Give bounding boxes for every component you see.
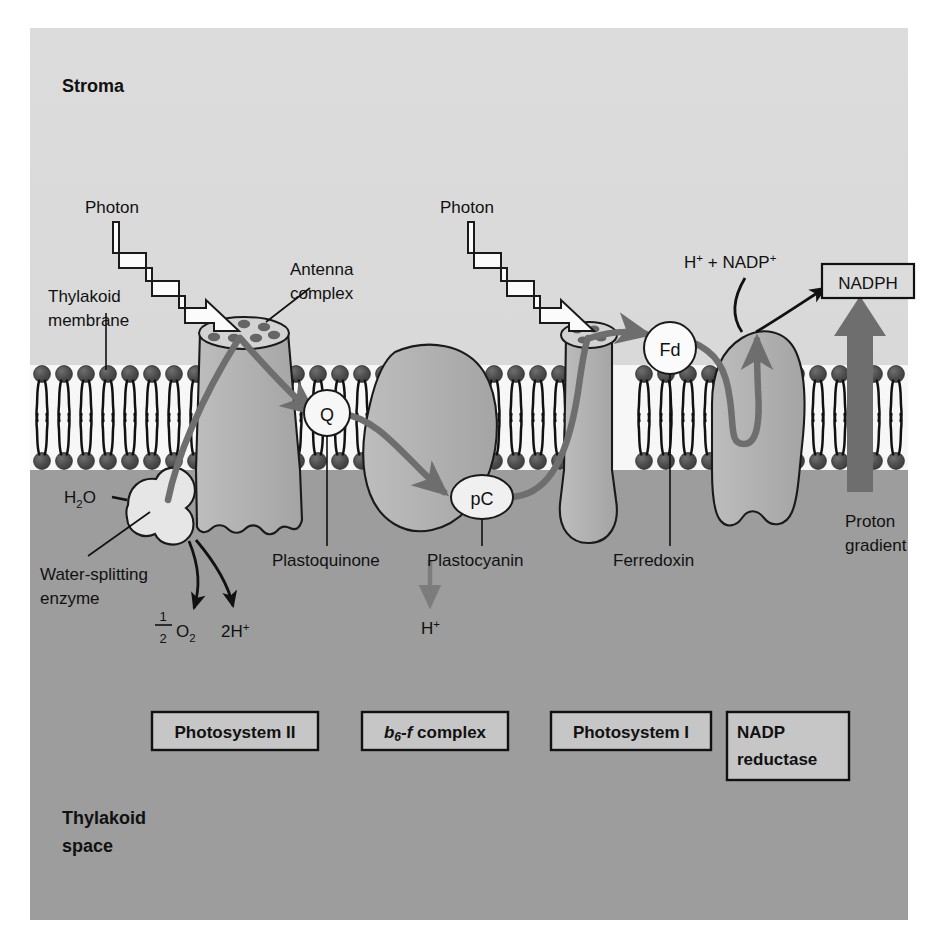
complex-label-b6f[interactable]: b6-f complex [362, 712, 508, 750]
complex-label-nadp-reductase[interactable]: NADP reductase [727, 712, 849, 780]
oxygen-numerator: 1 [159, 609, 166, 624]
thylakoid-space-label-line1: Thylakoid [62, 808, 146, 828]
figure-root: Q pC Fd [0, 0, 940, 948]
nadp-plus: + [708, 253, 718, 272]
plastocyanin-label: Plastocyanin [427, 551, 523, 570]
water-o: O [83, 488, 96, 507]
thylakoid-membrane-label-line1: Thylakoid [48, 287, 121, 306]
thylakoid-diagram: Q pC Fd [0, 0, 940, 948]
photon-right-label: Photon [440, 198, 494, 217]
water-splitting-label-line1: Water-splitting [40, 565, 148, 584]
plastocyanin-carrier[interactable]: pC [451, 475, 513, 519]
b6f-italic-b: b [384, 723, 394, 742]
nadph-label: NADPH [838, 274, 898, 293]
psi-label-text: Photosystem I [573, 723, 689, 742]
oxygen-denominator: 2 [159, 631, 166, 646]
proton-gradient-label-line2: gradient [845, 536, 907, 555]
water-splitting-label-line2: enzyme [40, 589, 100, 608]
nadp-name: NADP [722, 253, 769, 272]
antenna-complex-label-line2: complex [290, 284, 354, 303]
b6f-suffix: complex [412, 723, 486, 742]
plastoquinone-symbol: Q [320, 405, 334, 425]
complex-label-photosystem-ii[interactable]: Photosystem II [152, 712, 318, 750]
plastocyanin-symbol: pC [470, 489, 493, 509]
psii-label-text: Photosystem II [175, 723, 296, 742]
stroma-label: Stroma [62, 76, 125, 96]
proton-gradient-label-line1: Proton [845, 512, 895, 531]
protons-h: H [230, 622, 242, 641]
oxygen-sub: 2 [189, 632, 195, 644]
ferredoxin-carrier[interactable]: Fd [644, 322, 696, 374]
water-h: H [64, 488, 76, 507]
complex-label-photosystem-i[interactable]: Photosystem I [551, 712, 711, 750]
oxygen-o: O [176, 622, 189, 641]
photon-left-label: Photon [85, 198, 139, 217]
ferredoxin-symbol: Fd [659, 340, 680, 360]
plastoquinone-carrier[interactable]: Q [304, 390, 350, 436]
proton-pumped-h: H [421, 619, 433, 638]
nadp-reductase-label-line1: NADP [737, 723, 785, 742]
thylakoid-membrane-label-line2: membrane [48, 311, 129, 330]
antenna-complex-label-line1: Antenna [290, 260, 354, 279]
proton-pumped-sup: + [433, 618, 440, 630]
protons-count: 2 [221, 622, 230, 641]
psii-body [196, 333, 302, 534]
nadp-reductase-label-line2: reductase [737, 750, 817, 769]
thylakoid-space-label-line2: space [62, 836, 113, 856]
nadph-product-box[interactable]: NADPH [822, 264, 914, 298]
protons-sup: + [243, 621, 250, 633]
ferredoxin-label: Ferredoxin [613, 551, 694, 570]
nadp-sup: + [770, 252, 777, 264]
plastoquinone-label: Plastoquinone [272, 551, 380, 570]
nadp-h: H [684, 253, 696, 272]
